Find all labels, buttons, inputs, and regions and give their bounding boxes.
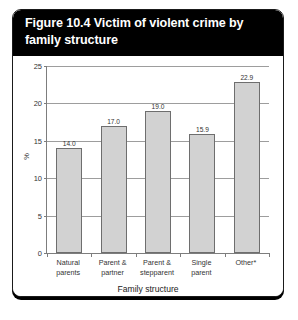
x-category-label-line: stepparent xyxy=(136,268,178,278)
bar-series: 14.017.019.015.922.9 xyxy=(47,66,269,253)
x-category-label-line: Natural xyxy=(47,258,89,268)
x-category-label-line: Parent & xyxy=(136,258,178,268)
x-tick-mark xyxy=(91,253,92,257)
y-axis-title: % xyxy=(22,153,31,160)
x-category-label-line: Parent & xyxy=(91,258,133,268)
x-category-label-line: parent xyxy=(180,268,222,278)
bar: 19.0 xyxy=(145,111,171,253)
x-tick-mark xyxy=(225,253,226,257)
plot-area: 0510152025 14.017.019.015.922.9 xyxy=(46,66,269,254)
bar-value-label: 14.0 xyxy=(63,140,76,147)
x-category-label: Parent &partner xyxy=(90,258,134,279)
y-tick-label: 5 xyxy=(38,211,42,220)
y-tick-label: 0 xyxy=(38,249,42,258)
bar-slot: 19.0 xyxy=(136,66,180,253)
chart-plot-wrapper: % 0510152025 14.017.019.015.922.9 Natura… xyxy=(13,56,283,297)
bar: 22.9 xyxy=(234,82,260,253)
bar-slot: 17.0 xyxy=(91,66,135,253)
bar-slot: 15.9 xyxy=(180,66,224,253)
bar-value-label: 19.0 xyxy=(152,103,165,110)
bar: 17.0 xyxy=(101,126,127,253)
bar-value-label: 17.0 xyxy=(107,118,120,125)
x-axis-title: Family structure xyxy=(13,284,283,294)
y-tick-label: 15 xyxy=(34,136,42,145)
y-tick-label: 25 xyxy=(34,62,42,71)
bar: 14.0 xyxy=(56,148,82,253)
y-tick-label: 10 xyxy=(34,174,42,183)
x-tick-mark xyxy=(180,253,181,257)
x-tick-mark xyxy=(136,253,137,257)
bar-slot: 14.0 xyxy=(47,66,91,253)
x-category-label: Naturalparents xyxy=(46,258,90,279)
y-tick-label: 20 xyxy=(34,99,42,108)
bar-value-label: 22.9 xyxy=(240,74,253,81)
figure-card: Figure 10.4 Victim of violent crime by f… xyxy=(12,9,284,297)
figure-title: Figure 10.4 Victim of violent crime by f… xyxy=(25,15,273,48)
x-category-label-line: parents xyxy=(47,268,89,278)
x-category-label-line: partner xyxy=(91,268,133,278)
x-tick-mark xyxy=(269,253,270,257)
bar-slot: 22.9 xyxy=(225,66,269,253)
figure-title-bar: Figure 10.4 Victim of violent crime by f… xyxy=(13,10,283,56)
x-tick-mark xyxy=(47,253,48,257)
bar-value-label: 15.9 xyxy=(196,126,209,133)
bar: 15.9 xyxy=(189,134,215,253)
x-axis-category-labels: NaturalparentsParent &partnerParent &ste… xyxy=(46,258,268,279)
x-category-label: Other* xyxy=(224,258,268,279)
x-category-label: Singleparent xyxy=(179,258,223,279)
x-category-label-line: Other* xyxy=(225,258,267,268)
x-category-label-line: Single xyxy=(180,258,222,268)
x-category-label: Parent &stepparent xyxy=(135,258,179,279)
